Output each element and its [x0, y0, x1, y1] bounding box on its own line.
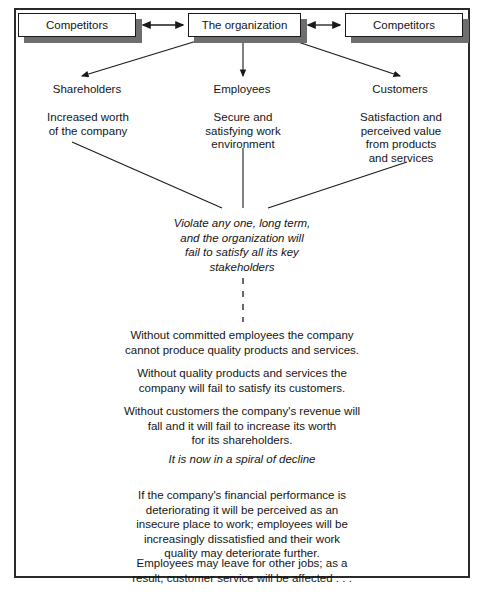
consequence-customers-line-1: Without customers the company's revenue … [97, 404, 387, 419]
desc-employees-line-1: Secure and [177, 111, 309, 125]
desc-shareholders-line-1: Increased worth [22, 111, 154, 125]
box-competitors-left[interactable]: Competitors [18, 13, 136, 37]
consequence-attrition: Employees may leave for other jobs; as a… [97, 556, 387, 585]
consequence-financial-line-2: deteriorating it will be perceived as an [97, 503, 387, 518]
stakeholder-label-shareholders-text: Shareholders [22, 83, 152, 97]
consequence-financial-line-4: increasingly dissatisfied and their work [97, 532, 387, 547]
consequence-customers: Without customers the company's revenue … [97, 404, 387, 448]
desc-customers-line-3: from products [335, 138, 467, 152]
consequence-customers-line-3: for its shareholders. [97, 433, 387, 448]
stakeholder-description-shareholders: Increased worth of the company [22, 111, 154, 138]
consequence-attrition-line-1: Employees may leave for other jobs; as a [97, 556, 387, 571]
consequence-attrition-line-2: result, customer service will be affecte… [97, 571, 387, 586]
stakeholder-label-customers: Customers [335, 83, 465, 97]
key-statement-line-2: and the organization will [132, 231, 352, 246]
key-statement: Violate any one, long term, and the orga… [132, 216, 352, 274]
diagram-canvas: Competitors The organization Competitors… [0, 0, 484, 596]
consequence-employees-line-2: cannot produce quality products and serv… [97, 343, 387, 358]
stakeholder-label-employees-text: Employees [177, 83, 307, 97]
stakeholder-label-shareholders: Shareholders [22, 83, 152, 97]
stakeholder-label-customers-text: Customers [335, 83, 465, 97]
key-statement-line-3: fail to satisfy all its key [132, 245, 352, 260]
box-competitors-right-label: Competitors [373, 19, 435, 31]
consequence-employees: Without committed employees the company … [97, 328, 387, 357]
consequence-customers-line-2: fall and it will fail to increase its wo… [97, 419, 387, 434]
spiral-statement: It is now in a spiral of decline [97, 452, 387, 467]
consequence-financial-line-1: If the company's financial performance i… [97, 488, 387, 503]
spiral-statement-text: It is now in a spiral of decline [97, 452, 387, 467]
desc-employees-line-2: satisfying work [177, 125, 309, 139]
box-the-organization-label: The organization [202, 19, 288, 31]
consequence-employees-line-1: Without committed employees the company [97, 328, 387, 343]
consequence-financial-line-3: insecure place to work; employees will b… [97, 517, 387, 532]
desc-customers-line-4: and services [335, 152, 467, 166]
consequence-quality-line-1: Without quality products and services th… [97, 366, 387, 381]
stakeholder-label-employees: Employees [177, 83, 307, 97]
box-competitors-right[interactable]: Competitors [345, 13, 463, 37]
box-the-organization[interactable]: The organization [188, 13, 301, 37]
key-statement-line-1: Violate any one, long term, [132, 216, 352, 231]
stakeholder-description-employees: Secure and satisfying work environment [177, 111, 309, 152]
desc-employees-line-3: environment [177, 138, 309, 152]
stakeholder-description-customers: Satisfaction and perceived value from pr… [335, 111, 467, 165]
box-competitors-left-label: Competitors [46, 19, 108, 31]
consequence-quality-line-2: company will fail to satisfy its custome… [97, 381, 387, 396]
desc-customers-line-2: perceived value [335, 125, 467, 139]
consequence-quality: Without quality products and services th… [97, 366, 387, 395]
consequence-financial: If the company's financial performance i… [97, 488, 387, 561]
key-statement-line-4: stakeholders [132, 260, 352, 275]
desc-customers-line-1: Satisfaction and [335, 111, 467, 125]
desc-shareholders-line-2: of the company [22, 125, 154, 139]
